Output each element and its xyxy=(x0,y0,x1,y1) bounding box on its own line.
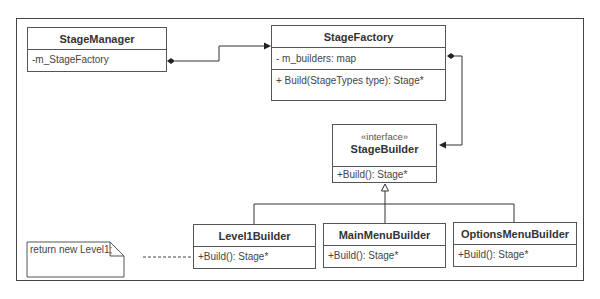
operation: +Build(): Stage* xyxy=(324,246,445,267)
operation: +Build(): Stage* xyxy=(333,167,436,183)
class-name: MainMenuBuilder xyxy=(324,224,445,246)
class-name: OptionsMenuBuilder xyxy=(454,223,576,245)
attribute: -m_StageFactory xyxy=(28,50,166,71)
class-name: StageManager xyxy=(28,28,166,50)
class-options-menu-builder[interactable]: OptionsMenuBuilder +Build(): Stage* xyxy=(453,222,577,267)
class-main-menu-builder[interactable]: MainMenuBuilder +Build(): Stage* xyxy=(323,223,446,268)
class-name-block: «interface» StageBuilder xyxy=(333,125,436,167)
class-level1-builder[interactable]: Level1Builder +Build(): Stage* xyxy=(193,224,316,269)
operation: +Build(): Stage* xyxy=(194,247,315,268)
note-return-level1: return new Level1; xyxy=(27,241,124,277)
class-stage-builder[interactable]: «interface» StageBuilder +Build(): Stage… xyxy=(332,124,437,183)
class-stage-manager[interactable]: StageManager -m_StageFactory xyxy=(27,27,167,72)
operation: + Build(StageTypes type): Stage* xyxy=(272,70,445,100)
class-name: StageBuilder xyxy=(351,143,419,155)
stereotype: «interface» xyxy=(333,130,436,143)
operation: +Build(): Stage* xyxy=(454,245,576,266)
class-name: Level1Builder xyxy=(194,225,315,247)
attribute: - m_builders: map xyxy=(272,48,445,70)
class-name: StageFactory xyxy=(272,26,445,48)
class-stage-factory[interactable]: StageFactory - m_builders: map + Build(S… xyxy=(271,25,446,101)
